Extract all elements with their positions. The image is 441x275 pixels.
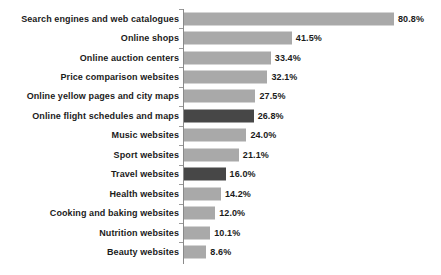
chart-row: Cooking and baking websites12.0% (0, 204, 441, 223)
category-label: Online flight schedules and maps (32, 111, 179, 121)
bar-chart: Search engines and web catalogues80.8%On… (0, 0, 441, 275)
category-label: Music websites (112, 130, 179, 140)
bar (184, 207, 215, 220)
bar (184, 226, 210, 239)
axis-tick (179, 184, 183, 185)
category-label: Online auction centers (80, 53, 179, 63)
axis-tick (179, 145, 183, 146)
bar-value-label: 14.2% (225, 189, 251, 199)
axis-tick (179, 223, 183, 224)
category-label: Travel websites (111, 169, 179, 179)
bar-value-label: 80.8% (398, 14, 424, 24)
chart-row: Travel websites16.0% (0, 165, 441, 184)
bar-value-label: 21.1% (243, 150, 269, 160)
bar-highlighted (184, 109, 254, 122)
axis-tick (179, 48, 183, 49)
axis-tick (179, 242, 183, 243)
bar-highlighted (184, 168, 226, 181)
chart-row: Beauty websites8.6% (0, 242, 441, 261)
chart-row: Online auction centers33.4% (0, 48, 441, 67)
chart-row: Price comparison websites32.1% (0, 67, 441, 86)
axis-tick (179, 165, 183, 166)
category-label: Health websites (109, 189, 179, 199)
chart-row: Online shops41.5% (0, 28, 441, 47)
category-label: Online shops (121, 33, 179, 43)
bar-value-label: 16.0% (230, 169, 256, 179)
bar (184, 187, 221, 200)
chart-row: Music websites24.0% (0, 126, 441, 145)
bar (184, 70, 267, 83)
plot-area: Search engines and web catalogues80.8%On… (0, 0, 441, 275)
bar (184, 32, 292, 45)
category-label: Beauty websites (107, 247, 179, 257)
category-label: Sport websites (114, 150, 179, 160)
bar-value-label: 32.1% (271, 72, 297, 82)
category-label: Online yellow pages and city maps (27, 91, 179, 101)
bar (184, 51, 271, 64)
axis-tick (179, 9, 183, 10)
axis-tick (179, 87, 183, 88)
category-label: Cooking and baking websites (50, 208, 179, 218)
chart-row: Online flight schedules and maps26.8% (0, 106, 441, 125)
chart-row: Health websites14.2% (0, 184, 441, 203)
bar (184, 90, 255, 103)
bar (184, 246, 206, 259)
bar (184, 148, 239, 161)
category-label: Search engines and web catalogues (21, 14, 179, 24)
bar-value-label: 33.4% (275, 53, 301, 63)
bar-value-label: 41.5% (296, 33, 322, 43)
bar (184, 12, 394, 25)
category-label: Nutrition websites (99, 228, 179, 238)
bar-value-label: 24.0% (250, 130, 276, 140)
bar-value-label: 26.8% (258, 111, 284, 121)
chart-row: Nutrition websites10.1% (0, 223, 441, 242)
bar-value-label: 8.6% (210, 247, 231, 257)
chart-row: Online yellow pages and city maps27.5% (0, 87, 441, 106)
bar-value-label: 12.0% (219, 208, 245, 218)
axis-tick (179, 106, 183, 107)
chart-row: Sport websites21.1% (0, 145, 441, 164)
bar (184, 129, 246, 142)
axis-tick (179, 204, 183, 205)
axis-tick (179, 67, 183, 68)
axis-tick (179, 28, 183, 29)
category-label: Price comparison websites (60, 72, 179, 82)
bar-value-label: 27.5% (259, 91, 285, 101)
chart-row: Search engines and web catalogues80.8% (0, 9, 441, 28)
axis-tick (179, 126, 183, 127)
bar-value-label: 10.1% (214, 228, 240, 238)
